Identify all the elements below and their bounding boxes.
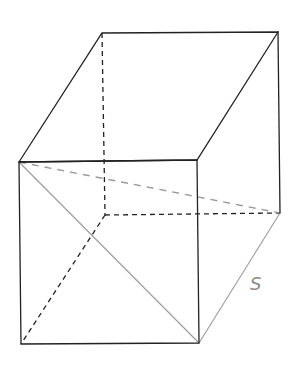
hidden-edge-back-bottom bbox=[105, 213, 280, 215]
space-diagonal bbox=[19, 162, 280, 213]
hidden-edge-back-vertical bbox=[102, 33, 105, 215]
back-right-vertical-edge bbox=[278, 32, 280, 213]
hidden-edge-bottom-left-depth bbox=[21, 215, 105, 344]
face-diagonal bbox=[19, 162, 199, 343]
cube-diagram: S bbox=[0, 0, 297, 369]
side-label-s: S bbox=[250, 273, 261, 294]
side-edge-s bbox=[199, 213, 280, 343]
top-face bbox=[19, 32, 278, 162]
